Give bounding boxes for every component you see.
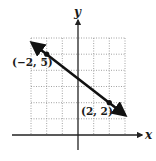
point-a-label: (−2, 5) — [12, 56, 53, 68]
x-axis-label: x — [144, 128, 153, 142]
point-b-label: (2, 2) — [81, 105, 113, 117]
y-axis-label: y — [73, 5, 82, 19]
coordinate-plane: x y (−2, 5) (2, 2) — [0, 0, 156, 161]
